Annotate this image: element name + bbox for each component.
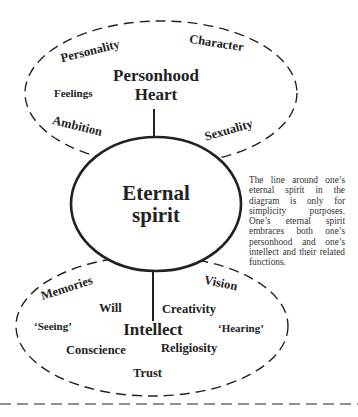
label-trust: Trust [133, 367, 162, 380]
personhood-title: Personhood Heart [104, 67, 208, 103]
label-hearing: ‘Hearing’ [218, 323, 264, 334]
eternal-spirit-title-line1: Eternal [106, 182, 206, 204]
personhood-title-line1: Personhood [104, 67, 208, 84]
intellect-title: Intellect [116, 321, 190, 338]
explanatory-note: The line around one’s eternal spirit in … [249, 175, 345, 268]
label-religiosity: Religiosity [161, 342, 217, 355]
eternal-spirit-title-line2: spirit [106, 204, 206, 226]
diagram-canvas: Personality Character Feelings Ambition … [0, 0, 358, 417]
label-feelings: Feelings [54, 88, 93, 99]
label-creativity: Creativity [162, 303, 216, 316]
personhood-title-line2: Heart [104, 86, 208, 103]
label-conscience: Conscience [66, 344, 126, 357]
label-will: Will [99, 302, 122, 315]
eternal-spirit-title: Eternal spirit [106, 182, 206, 226]
label-seeing: ‘Seeing’ [34, 321, 72, 332]
